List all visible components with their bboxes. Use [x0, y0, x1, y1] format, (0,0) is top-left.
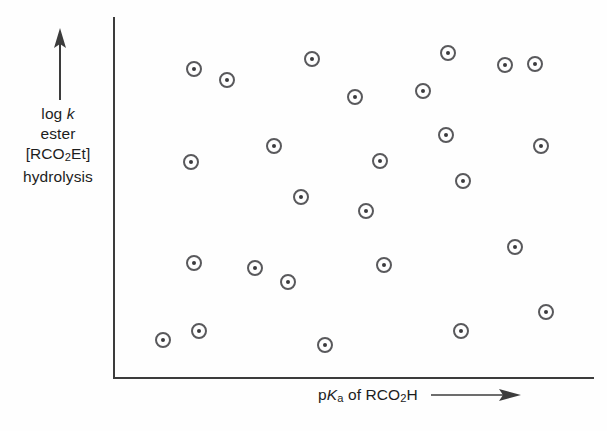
x-axis-line [113, 377, 594, 379]
data-point-marker[interactable] [266, 138, 282, 154]
data-point-marker[interactable] [533, 138, 549, 154]
plot-area [0, 0, 607, 431]
data-point-marker[interactable] [415, 83, 431, 99]
data-point-marker[interactable] [347, 89, 363, 105]
x-axis-label: pKa of RCO2H [318, 386, 418, 404]
data-point-marker[interactable] [440, 45, 456, 61]
data-point-marker[interactable] [453, 323, 469, 339]
data-point-marker[interactable] [507, 239, 523, 255]
data-point-marker[interactable] [455, 173, 471, 189]
x-axis-label-group: pKa of RCO2H [318, 386, 523, 404]
data-point-marker[interactable] [186, 255, 202, 271]
data-point-marker[interactable] [183, 154, 199, 170]
data-point-marker[interactable] [358, 203, 374, 219]
data-point-marker[interactable] [280, 274, 296, 290]
y-axis-label-line-4: hydrolysis [8, 167, 108, 187]
data-point-marker[interactable] [527, 56, 543, 72]
data-point-marker[interactable] [247, 260, 263, 276]
data-point-marker[interactable] [438, 127, 454, 143]
data-point-marker[interactable] [538, 304, 554, 320]
y-axis-label-line-3: [RCO2Et] [8, 144, 108, 167]
x-axis-arrow-icon [431, 387, 523, 403]
x-axis-label-italic-K: K [327, 386, 337, 403]
scatter-plot-figure: log k ester [RCO2Et] hydrolysis pKa of R… [0, 0, 607, 431]
data-point-marker[interactable] [186, 61, 202, 77]
data-point-marker[interactable] [372, 153, 388, 169]
data-point-marker[interactable] [497, 57, 513, 73]
y-axis-line [113, 17, 115, 379]
y-axis-label-italic-k: k [67, 105, 75, 122]
data-point-marker[interactable] [317, 337, 333, 353]
y-axis-arrow-icon [44, 26, 76, 100]
data-point-marker[interactable] [155, 332, 171, 348]
y-axis-label-line-2: ester [8, 124, 108, 144]
y-axis-label: log k ester [RCO2Et] hydrolysis [8, 104, 108, 187]
data-point-marker[interactable] [191, 323, 207, 339]
data-point-marker[interactable] [219, 72, 235, 88]
data-point-marker[interactable] [293, 189, 309, 205]
y-axis-label-line-1: log k [8, 104, 108, 124]
data-point-marker[interactable] [376, 257, 392, 273]
data-point-marker[interactable] [304, 51, 320, 67]
